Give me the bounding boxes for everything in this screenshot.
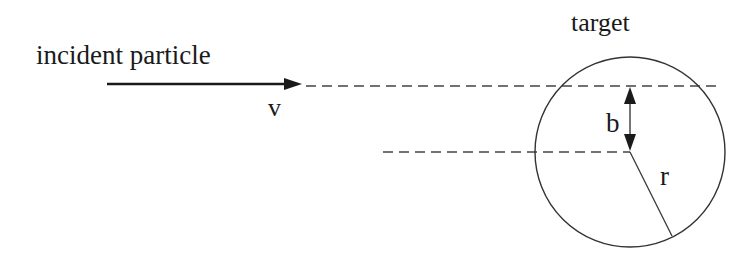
radius-label: r <box>660 161 669 191</box>
scattering-diagram: incident particle v target b r <box>0 0 753 259</box>
velocity-label: v <box>268 93 281 122</box>
incident-particle-label: incident particle <box>36 40 211 70</box>
target-label: target <box>571 8 630 37</box>
velocity-arrow-icon <box>107 78 302 90</box>
impact-parameter-label: b <box>606 108 620 138</box>
impact-parameter-arrow-icon <box>624 87 636 151</box>
